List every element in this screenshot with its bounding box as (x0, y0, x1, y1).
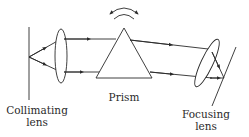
collimating-lens-label: Collimating lens (6, 104, 68, 128)
collimating-label-line1: Collimating (6, 104, 68, 116)
prism-label: Prism (106, 91, 142, 103)
focusing-lens-shape (191, 37, 224, 89)
prism-shape (96, 28, 152, 78)
focusing-lens-label: Focusing lens (178, 108, 234, 132)
rotation-arrow-icon (110, 8, 138, 19)
collimating-lens-shape (55, 29, 67, 83)
collimating-label-line2: lens (6, 116, 68, 128)
focusing-label-line1: Focusing (178, 108, 234, 120)
focusing-label-line2: lens (178, 120, 234, 132)
